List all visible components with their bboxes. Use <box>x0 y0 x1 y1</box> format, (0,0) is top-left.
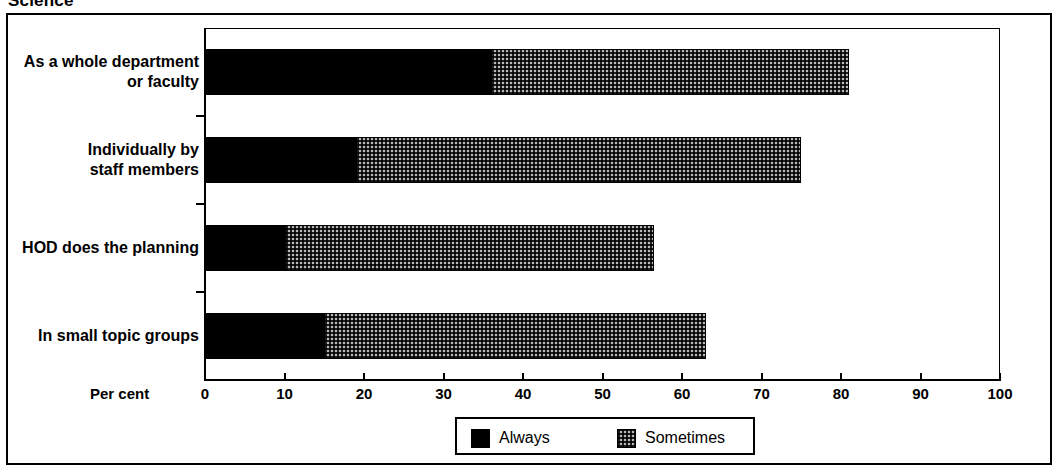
x-axis-tick-label: 70 <box>753 385 770 402</box>
x-axis-tick <box>443 373 445 381</box>
bar-segment-always <box>205 225 285 271</box>
x-axis-tick <box>363 373 365 381</box>
category-label: In small topic groups <box>38 326 199 346</box>
y-axis-tick <box>196 203 205 205</box>
x-axis-tick-label: 60 <box>674 385 691 402</box>
x-axis-tick <box>602 373 604 381</box>
category-label: Individually by staff members <box>88 140 199 180</box>
y-axis-tick <box>196 291 205 293</box>
bar-segment-sometimes <box>491 49 849 95</box>
x-axis-tick <box>920 373 922 381</box>
x-axis-tick-label: 50 <box>594 385 611 402</box>
y-axis-tick <box>196 115 205 117</box>
x-axis-tick <box>522 373 524 381</box>
x-axis-tick-label: 100 <box>987 385 1012 402</box>
x-axis-tick-label: 30 <box>435 385 452 402</box>
bar-segment-always <box>205 137 356 183</box>
bar-segment-always <box>205 313 324 359</box>
figure-container: Science 0102030405060708090100 Per cent … <box>0 0 1060 473</box>
category-label: As a whole department or faculty <box>24 52 199 92</box>
x-axis-tick-label: 40 <box>515 385 532 402</box>
x-axis-tick-label: 0 <box>201 385 209 402</box>
x-axis-tick <box>681 373 683 381</box>
x-axis-tick-label: 90 <box>912 385 929 402</box>
legend: Always Sometimes <box>455 417 755 455</box>
x-axis-tick <box>999 373 1001 381</box>
legend-swatch-sometimes-icon <box>617 429 636 448</box>
bar-segment-sometimes <box>356 137 801 183</box>
legend-item-always: Always <box>471 427 550 449</box>
figure-title: Science <box>8 0 74 9</box>
x-axis-tick-label: 80 <box>833 385 850 402</box>
legend-swatch-always-icon <box>471 429 490 448</box>
x-axis-tick <box>840 373 842 381</box>
legend-label-always: Always <box>499 429 550 447</box>
x-axis-tick <box>204 373 206 381</box>
x-axis-tick <box>284 373 286 381</box>
x-axis-tick-label: 10 <box>276 385 293 402</box>
legend-item-sometimes: Sometimes <box>617 427 725 449</box>
category-label: HOD does the planning <box>22 238 199 258</box>
x-axis-tick <box>761 373 763 381</box>
bar-segment-sometimes <box>285 225 655 271</box>
bar-segment-always <box>205 49 491 95</box>
x-axis-tick-label: 20 <box>356 385 373 402</box>
bar-segment-sometimes <box>324 313 706 359</box>
legend-label-sometimes: Sometimes <box>645 429 725 447</box>
x-axis-caption: Per cent <box>90 385 149 402</box>
